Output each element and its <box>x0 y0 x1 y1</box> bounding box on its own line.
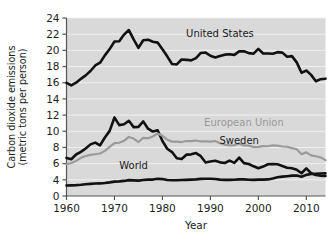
x-axis-title: Year <box>184 219 208 231</box>
y-axis-tick-label: 16 <box>46 76 60 88</box>
series-label-european-union: European Union <box>204 117 284 128</box>
y-axis-tick-label: 22 <box>46 28 59 40</box>
y-axis-tick-label: 24 <box>46 12 60 24</box>
x-axis-tick-label: 1960 <box>53 202 80 214</box>
series-label-world: World <box>119 160 148 171</box>
y-axis-title-line1: Carbon dioxide emissions <box>6 46 17 169</box>
x-axis-tick-label: 2010 <box>293 202 320 214</box>
x-axis-tick-label: 1990 <box>197 202 224 214</box>
y-axis-tick-label: 8 <box>53 141 60 153</box>
y-axis-title-line2: (metric tons per person) <box>17 48 28 165</box>
x-axis-tick-label: 1970 <box>101 202 128 214</box>
chart-figure: 04681012141618202224 1960197019801990200… <box>0 0 329 248</box>
x-axis-tick-label: 1980 <box>149 202 176 214</box>
series-label-united-states: United States <box>186 28 254 39</box>
y-axis-tick-label: 6 <box>53 157 60 169</box>
y-axis-tick-label: 10 <box>46 125 59 137</box>
y-axis-tick-label: 0 <box>53 190 60 202</box>
y-axis-tick-label: 4 <box>53 174 60 186</box>
y-axis-tick-label: 20 <box>46 44 59 56</box>
y-axis-tick-label: 12 <box>46 109 59 121</box>
chart-canvas: 04681012141618202224 1960197019801990200… <box>0 0 329 248</box>
series-label-sweden: Sweden <box>219 135 259 146</box>
y-axis-tick-label: 14 <box>46 93 60 105</box>
x-axis-tick-label: 2000 <box>245 202 272 214</box>
plot-area-background <box>67 18 326 196</box>
y-axis-tick-label: 18 <box>46 60 59 72</box>
